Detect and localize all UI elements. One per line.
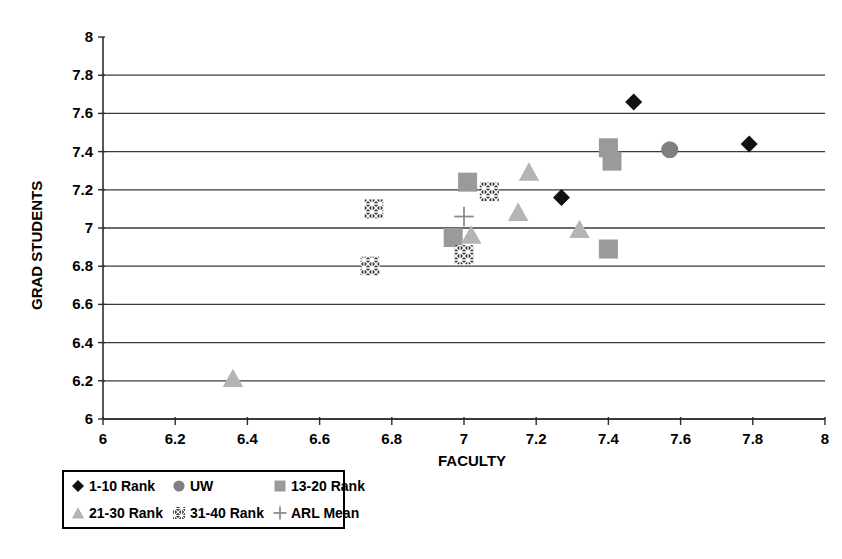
scatter-chart: GRAD STUDENTS FACULTY 66.26.46.66.877.27… bbox=[0, 0, 842, 559]
legend-entry-label: 13-20 Rank bbox=[291, 479, 365, 493]
data-point bbox=[454, 207, 474, 227]
series-arl-mean bbox=[454, 207, 474, 227]
data-point bbox=[569, 220, 590, 238]
data-point bbox=[625, 93, 642, 110]
data-point bbox=[223, 369, 244, 387]
legend-grid: 1-10 RankUW13-20 Rank21-30 Rank31-40 Ran… bbox=[64, 472, 343, 527]
triangle-marker-icon bbox=[70, 505, 86, 521]
data-point bbox=[444, 228, 463, 247]
diamond-marker-icon bbox=[70, 478, 86, 494]
data-point bbox=[361, 257, 380, 276]
data-point bbox=[741, 135, 758, 152]
square-marker-icon bbox=[272, 478, 288, 494]
data-point bbox=[508, 202, 529, 220]
data-point bbox=[603, 152, 622, 171]
data-point bbox=[480, 182, 499, 201]
legend-entry: 21-30 Rank bbox=[70, 505, 171, 521]
legend-entry: UW bbox=[171, 478, 272, 494]
legend-entry: ARL Mean bbox=[272, 505, 351, 521]
data-point bbox=[519, 162, 540, 180]
legend-entry: 13-20 Rank bbox=[272, 478, 351, 494]
legend-entry-label: UW bbox=[190, 479, 213, 493]
legend: 1-10 RankUW13-20 Rank21-30 Rank31-40 Ran… bbox=[62, 470, 345, 529]
data-point bbox=[458, 173, 477, 192]
data-point bbox=[553, 189, 570, 206]
series-21-30-rank bbox=[223, 162, 590, 387]
plus-marker-icon bbox=[272, 505, 288, 521]
series-31-40-rank bbox=[361, 182, 499, 275]
legend-entry: 31-40 Rank bbox=[171, 505, 272, 521]
series-uw bbox=[661, 141, 678, 158]
legend-entry-label: 31-40 Rank bbox=[190, 506, 264, 520]
circle-marker-icon bbox=[171, 478, 187, 494]
legend-entry-label: ARL Mean bbox=[291, 506, 359, 520]
hatched-square-marker-icon bbox=[171, 505, 187, 521]
series-1-10-rank bbox=[553, 93, 758, 206]
data-point bbox=[661, 141, 678, 158]
data-point bbox=[455, 245, 474, 264]
data-point bbox=[599, 240, 618, 259]
data-point bbox=[364, 199, 383, 218]
legend-entry: 1-10 Rank bbox=[70, 478, 171, 494]
legend-entry-label: 1-10 Rank bbox=[89, 479, 155, 493]
legend-entry-label: 21-30 Rank bbox=[89, 506, 163, 520]
